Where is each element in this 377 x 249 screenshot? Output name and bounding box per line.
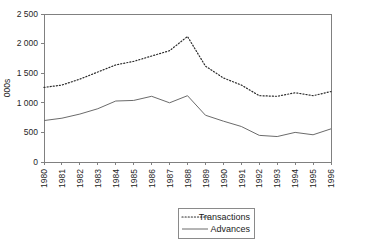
x-tick-label: 1983 — [93, 169, 103, 188]
x-tick-label: 1982 — [75, 169, 85, 188]
x-tick-label: 1988 — [183, 169, 193, 188]
series-line-transactions — [44, 37, 331, 97]
legend-label-advances: Advances — [210, 224, 250, 234]
legend-label-transactions: Transactions — [199, 212, 251, 222]
x-tick-label: 1989 — [201, 169, 211, 188]
y-tick-label: 1 500 — [17, 68, 39, 78]
line-chart: 05001 0001 5002 0002 500 198019811982198… — [0, 0, 377, 249]
y-tick-label: 0 — [33, 157, 38, 167]
chart-container: 05001 0001 5002 0002 500 198019811982198… — [0, 0, 377, 249]
x-tick-label: 1984 — [111, 169, 121, 188]
x-tick-label: 1992 — [254, 169, 264, 188]
y-tick-label: 1 000 — [17, 98, 39, 108]
x-tick-label: 1986 — [147, 169, 157, 188]
x-tick-label: 1996 — [326, 169, 336, 188]
plot-frame — [44, 14, 331, 162]
series-line-advances — [44, 96, 331, 137]
y-tick-label: 500 — [24, 127, 38, 137]
y-axis-title-label: 000s — [2, 79, 12, 97]
x-axis: 1980198119821983198419851986198719881989… — [39, 162, 336, 188]
y-tick-label: 2 000 — [17, 38, 39, 48]
chart-legend: TransactionsAdvances — [178, 208, 254, 238]
x-tick-label: 1981 — [57, 169, 67, 188]
x-tick-label: 1980 — [39, 169, 49, 188]
data-series — [44, 37, 331, 137]
x-tick-label: 1995 — [308, 169, 318, 188]
y-axis-title: 000s — [2, 79, 12, 97]
x-tick-label: 1994 — [290, 169, 300, 188]
x-tick-label: 1987 — [165, 169, 175, 188]
x-tick-label: 1985 — [129, 169, 139, 188]
x-tick-label: 1993 — [272, 169, 282, 188]
y-tick-label: 2 500 — [17, 9, 39, 19]
y-axis: 05001 0001 5002 0002 500 — [17, 9, 44, 167]
x-tick-label: 1990 — [219, 169, 229, 188]
x-tick-label: 1991 — [237, 169, 247, 188]
